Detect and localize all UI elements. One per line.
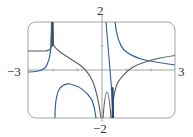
y-max-label: 2 <box>97 4 104 17</box>
x-max-label: 3 <box>178 65 185 78</box>
y-min-label: −2 <box>93 122 107 135</box>
function-plot <box>0 0 193 137</box>
x-min-label: −3 <box>7 65 21 78</box>
